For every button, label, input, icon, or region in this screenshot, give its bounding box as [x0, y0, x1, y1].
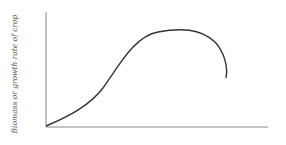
chart: [0, 0, 286, 145]
growth-curve: [46, 30, 227, 126]
